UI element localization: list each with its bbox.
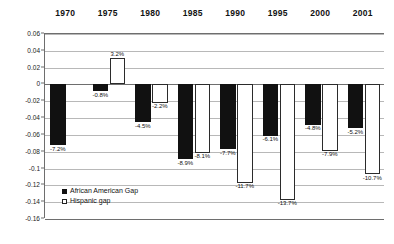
bar-value-label-1985-african-american: -8.9% (175, 160, 196, 166)
bar-value-label-1975-african-american: -0.8% (90, 92, 111, 98)
bar-group-1995: -6.1%-13.7% (258, 34, 301, 218)
y-tick-mark (41, 33, 44, 34)
y-tick-label--0.04: -0.04 (0, 114, 40, 121)
year-label-1995: 1995 (257, 6, 300, 24)
gap-bar-chart: 19701975198019851990199520002001 -7.2%-0… (0, 0, 394, 244)
bar-2001-hispanic (365, 84, 381, 174)
bar-1970-african-american (50, 84, 66, 145)
bar-2001-african-american (348, 84, 364, 128)
bar-group-2001: -5.2%-10.7% (343, 34, 386, 218)
bar-value-label-1990-african-american: -7.7% (218, 150, 239, 156)
chart-legend: African American GapHispanic gap (62, 186, 138, 206)
y-tick-label--0.02: -0.02 (0, 97, 40, 104)
y-tick-label--0.1: -0.1 (0, 164, 40, 171)
y-tick-mark (41, 117, 44, 118)
bar-1980-hispanic (152, 84, 168, 103)
year-label-1980: 1980 (129, 6, 172, 24)
bar-1995-african-american (263, 84, 279, 135)
bar-value-label-1985-hispanic: -8.1% (192, 153, 213, 159)
legend-item-african-american-gap: African American Gap (62, 186, 138, 196)
bar-value-label-1995-african-american: -6.1% (260, 136, 281, 142)
gridline--0.16 (45, 219, 384, 220)
bar-value-label-1975-hispanic: 3.2% (107, 51, 128, 57)
legend-label: Hispanic gap (70, 196, 110, 206)
bar-value-label-2001-hispanic: -10.7% (362, 175, 383, 181)
y-tick-label-0: 0 (0, 80, 40, 87)
y-tick-mark (41, 184, 44, 185)
year-label-2000: 2000 (299, 6, 342, 24)
year-label-2001: 2001 (342, 6, 385, 24)
y-tick-label--0.16: -0.16 (0, 215, 40, 222)
y-tick-mark (41, 66, 44, 67)
legend-label: African American Gap (70, 186, 138, 196)
y-tick-label--0.06: -0.06 (0, 130, 40, 137)
bar-2000-african-american (305, 84, 321, 124)
bar-value-label-2000-african-american: -4.8% (303, 125, 324, 131)
y-tick-label-0.04: 0.04 (0, 46, 40, 53)
bar-value-label-1995-hispanic: -13.7% (277, 200, 298, 206)
bar-group-2000: -4.8%-7.9% (300, 34, 343, 218)
legend-item-hispanic-gap: Hispanic gap (62, 196, 138, 206)
y-tick-label--0.14: -0.14 (0, 198, 40, 205)
bar-1975-hispanic (110, 58, 126, 85)
y-tick-mark (41, 201, 44, 202)
bar-1990-african-american (220, 84, 236, 149)
legend-swatch-icon (62, 189, 67, 194)
bar-value-label-1980-african-american: -4.5% (133, 123, 154, 129)
y-tick-label-0.02: 0.02 (0, 63, 40, 70)
bar-value-label-1970-african-american: -7.2% (48, 146, 69, 152)
y-tick-mark (41, 150, 44, 151)
bar-1980-african-american (135, 84, 151, 122)
y-tick-mark (41, 49, 44, 50)
bar-value-label-1980-hispanic: -2.2% (150, 103, 171, 109)
bar-1995-hispanic (280, 84, 296, 199)
y-tick-mark (41, 100, 44, 101)
bar-group-1985: -8.9%-8.1% (173, 34, 216, 218)
year-label-1985: 1985 (172, 6, 215, 24)
y-tick-mark (41, 83, 44, 84)
y-tick-label-0.06: 0.06 (0, 30, 40, 37)
bar-1985-hispanic (195, 84, 211, 152)
y-tick-mark (41, 133, 44, 134)
bar-1975-african-american (93, 84, 109, 91)
bar-group-1990: -7.7%-11.7% (215, 34, 258, 218)
bar-value-label-2000-hispanic: -7.9% (320, 151, 341, 157)
bar-value-label-2001-african-american: -5.2% (345, 129, 366, 135)
bar-1990-hispanic (237, 84, 253, 182)
year-axis-header: 19701975198019851990199520002001 (44, 6, 384, 24)
legend-swatch-icon (62, 199, 67, 204)
year-label-1975: 1975 (87, 6, 130, 24)
year-label-1970: 1970 (44, 6, 87, 24)
y-tick-mark (41, 218, 44, 219)
y-tick-mark (41, 167, 44, 168)
bar-1985-african-american (178, 84, 194, 159)
y-tick-label--0.08: -0.08 (0, 147, 40, 154)
bar-2000-hispanic (322, 84, 338, 150)
year-label-1990: 1990 (214, 6, 257, 24)
bar-value-label-1990-hispanic: -11.7% (235, 183, 256, 189)
y-tick-label--0.12: -0.12 (0, 181, 40, 188)
